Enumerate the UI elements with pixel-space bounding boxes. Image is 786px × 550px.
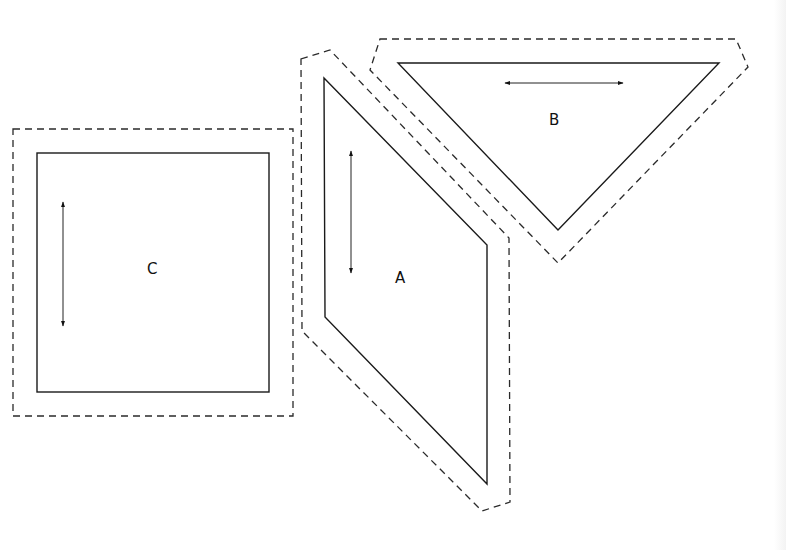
piece-c-label: C — [147, 260, 157, 278]
piece-b-label: B — [549, 111, 559, 129]
piece-a-cutting-line — [301, 50, 510, 511]
piece-a[interactable]: A — [301, 50, 510, 511]
piece-c[interactable]: C — [13, 129, 293, 416]
piece-a-label: A — [395, 269, 406, 287]
piece-a-seam-line — [324, 78, 487, 484]
pattern-diagram: C A B — [0, 0, 786, 550]
